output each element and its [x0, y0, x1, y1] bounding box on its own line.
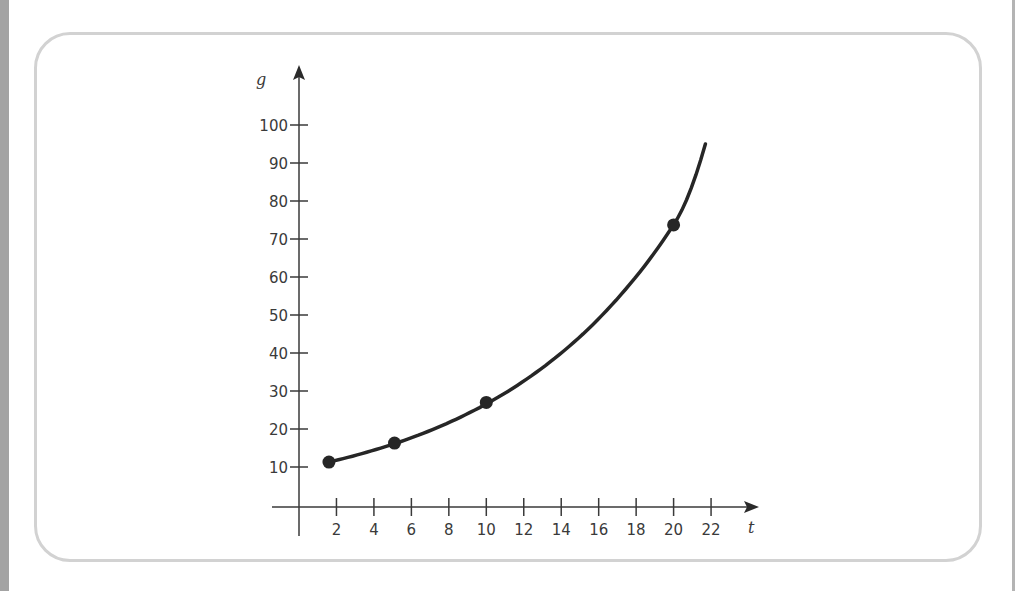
y-tick-label: 100	[259, 117, 288, 135]
x-tick-label: 12	[514, 521, 533, 539]
data-series	[322, 144, 705, 469]
x-tick-label: 22	[702, 521, 721, 539]
y-tick-label: 50	[269, 307, 288, 325]
y-tick-label: 20	[269, 421, 288, 439]
x-tick-label: 2	[332, 521, 342, 539]
x-tick-label: 10	[477, 521, 496, 539]
x-tick-label: 16	[589, 521, 608, 539]
y-tick-label: 80	[269, 193, 288, 211]
x-axis: 246810121416182022 t	[272, 498, 756, 539]
x-tick-label: 14	[552, 521, 571, 539]
y-tick-label: 70	[269, 231, 288, 249]
data-point	[480, 396, 493, 409]
y-tick-label: 30	[269, 383, 288, 401]
chart: 246810121416182022 t 1020304050607080901…	[0, 0, 1022, 591]
y-tick-label: 60	[269, 269, 288, 287]
data-point	[388, 437, 401, 450]
x-tick-label: 18	[627, 521, 646, 539]
data-point	[667, 218, 680, 231]
curve-line	[329, 144, 705, 462]
x-axis-label: t	[748, 518, 755, 537]
data-point	[322, 456, 335, 469]
x-tick-label: 6	[407, 521, 417, 539]
y-tick-label: 90	[269, 155, 288, 173]
x-tick-label: 8	[444, 521, 454, 539]
y-axis-label: g	[256, 70, 266, 89]
x-tick-label: 4	[369, 521, 379, 539]
y-tick-label: 40	[269, 345, 288, 363]
y-axis: 102030405060708090100 g	[256, 68, 308, 536]
y-tick-label: 10	[269, 459, 288, 477]
x-tick-label: 20	[664, 521, 683, 539]
